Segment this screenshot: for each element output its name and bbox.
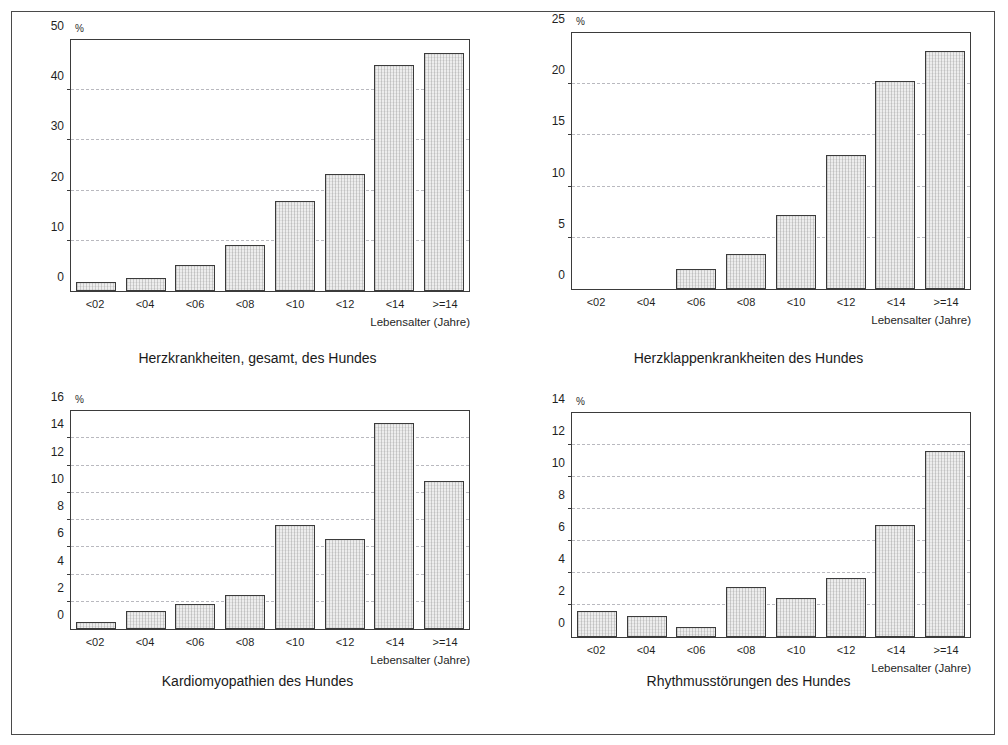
bars-layer [572, 413, 970, 637]
y-axis-tick-label: 16 [51, 390, 71, 404]
charts-grid: % 01020304050 <02<04<06<08<10<12<14>=14 … [12, 12, 994, 734]
bar-slot [672, 413, 722, 637]
x-axis-tick-label: <02 [70, 298, 120, 310]
x-axis-tick-label: <08 [721, 644, 771, 656]
plot-area: % 02468101214 [571, 412, 971, 638]
plot-wrap: % 0510152025 <02<04<06<08<10<12<14>=14 L… [571, 32, 971, 290]
x-axis-tick-label: <12 [821, 296, 871, 308]
bar-slot [171, 411, 221, 629]
y-axis-tick-label: 10 [552, 456, 572, 470]
x-axis-tick-label: <08 [721, 296, 771, 308]
bar[interactable] [925, 451, 965, 637]
x-axis-tick-label: <10 [771, 644, 821, 656]
chart-caption: Kardiomyopathien des Hundes [12, 673, 503, 689]
bar[interactable] [726, 587, 766, 637]
bar-slot [220, 40, 270, 291]
bar[interactable] [726, 254, 766, 289]
x-axis-tick-label: <04 [120, 636, 170, 648]
bar[interactable] [76, 622, 116, 629]
x-axis-tick-label: <08 [220, 298, 270, 310]
y-axis-tick-label: 15 [552, 114, 572, 128]
y-axis-tick-label: 4 [558, 552, 572, 566]
bar[interactable] [76, 282, 116, 291]
bar[interactable] [776, 598, 816, 637]
chart-caption: Rhythmusstörungen des Hundes [503, 673, 994, 689]
bar[interactable] [676, 269, 716, 289]
bar-slot [622, 413, 672, 637]
plot-wrap: % 02468101214 <02<04<06<08<10<12<14>=14 … [571, 412, 971, 638]
bar[interactable] [925, 51, 965, 289]
bar-slot [270, 411, 320, 629]
x-axis-labels: <02<04<06<08<10<12<14>=14 [70, 630, 470, 648]
bar[interactable] [875, 81, 915, 289]
x-axis-tick-label: <04 [621, 296, 671, 308]
bars-layer [71, 40, 469, 291]
bar[interactable] [225, 595, 265, 629]
x-axis-tick-label: <14 [871, 644, 921, 656]
chart-panel-kardiomyopathien: % 0246810121416 <02<04<06<08<10<12<14>=1… [12, 373, 503, 734]
y-axis-tick-label: 8 [558, 488, 572, 502]
bar[interactable] [627, 616, 667, 637]
y-axis-tick-label: 12 [51, 445, 71, 459]
bar-slot [721, 413, 771, 637]
x-axis-tick-label: <12 [821, 644, 871, 656]
bar[interactable] [776, 215, 816, 289]
bar[interactable] [325, 174, 365, 291]
bar[interactable] [325, 539, 365, 629]
x-axis-labels: <02<04<06<08<10<12<14>=14 [70, 292, 470, 310]
y-axis-unit-label: % [75, 394, 84, 405]
bar[interactable] [826, 155, 866, 289]
bar[interactable] [225, 245, 265, 291]
bar[interactable] [374, 423, 414, 629]
bar-slot [71, 411, 121, 629]
bar[interactable] [676, 627, 716, 637]
plot-wrap: % 0246810121416 <02<04<06<08<10<12<14>=1… [70, 410, 470, 630]
bar-slot [419, 411, 469, 629]
bar[interactable] [826, 578, 866, 637]
bar-slot [771, 413, 821, 637]
x-axis-tick-label: >=14 [921, 644, 971, 656]
x-axis-tick-label: <12 [320, 636, 370, 648]
x-axis-tick-label: <08 [220, 636, 270, 648]
chart-caption: Herzklappenkrankheiten des Hundes [503, 350, 994, 366]
bar-slot [871, 413, 921, 637]
bar-slot [821, 33, 871, 289]
bar-slot [672, 33, 722, 289]
plot-area: % 01020304050 [70, 39, 470, 292]
bar-slot [920, 33, 970, 289]
y-axis-tick-label: 0 [57, 608, 71, 622]
bar[interactable] [424, 481, 464, 630]
bar[interactable] [175, 604, 215, 629]
bar-slot [771, 33, 821, 289]
bars-layer [71, 411, 469, 629]
bar-slot [270, 40, 320, 291]
bar[interactable] [275, 525, 315, 629]
x-axis-tick-label: <14 [871, 296, 921, 308]
y-axis-tick-label: 14 [51, 417, 71, 431]
bar[interactable] [275, 201, 315, 291]
y-axis-tick-label: 4 [57, 554, 71, 568]
y-axis-tick-label: 6 [558, 520, 572, 534]
x-axis-tick-label: <06 [170, 298, 220, 310]
chart-caption: Herzkrankheiten, gesamt, des Hundes [12, 350, 503, 366]
bar-slot [121, 411, 171, 629]
bar[interactable] [577, 611, 617, 637]
bar[interactable] [175, 265, 215, 291]
y-axis-unit-label: % [576, 396, 585, 407]
y-axis-tick-label: 30 [51, 119, 71, 133]
y-axis-tick-label: 10 [552, 166, 572, 180]
bar[interactable] [875, 525, 915, 637]
bars-layer [572, 33, 970, 289]
y-axis-tick-label: 5 [558, 217, 572, 231]
bar[interactable] [126, 278, 166, 291]
bar-slot [171, 40, 221, 291]
bar-slot [622, 33, 672, 289]
bar[interactable] [126, 611, 166, 629]
y-axis-tick-label: 14 [552, 392, 572, 406]
bar[interactable] [374, 65, 414, 291]
bar[interactable] [424, 53, 464, 291]
y-axis-tick-label: 50 [51, 19, 71, 33]
y-axis-tick-label: 6 [57, 526, 71, 540]
plot-wrap: % 01020304050 <02<04<06<08<10<12<14>=14 … [70, 39, 470, 292]
bar-slot [419, 40, 469, 291]
